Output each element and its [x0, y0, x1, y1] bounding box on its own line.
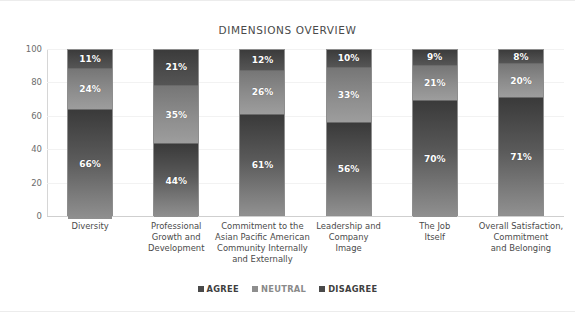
legend-swatch-disagree — [319, 286, 325, 292]
stacked-bar[interactable]: 11%24%66% — [67, 49, 113, 216]
y-axis-tick-label: 20 — [8, 178, 42, 188]
legend-swatch-agree — [198, 286, 204, 292]
chart-title: DIMENSIONS OVERVIEW — [0, 24, 575, 36]
stacked-bar[interactable]: 9%21%70% — [412, 49, 458, 216]
bar-segment-label: 8% — [513, 52, 528, 62]
stacked-bar[interactable]: 21%35%44% — [153, 49, 199, 216]
gridline — [47, 82, 564, 83]
x-axis-category-line: Asian Pacific American — [213, 232, 311, 243]
bar-segment-label: 24% — [79, 84, 101, 94]
bar-segment-disagree[interactable]: 11% — [68, 50, 112, 68]
bar-segment-label: 11% — [79, 54, 101, 64]
bar-segment-neutral[interactable]: 24% — [68, 68, 112, 110]
bar-segment-label: 12% — [252, 55, 274, 65]
bar-segment-disagree[interactable]: 8% — [499, 50, 543, 63]
legend-swatch-neutral — [252, 286, 258, 292]
bar-segment-neutral[interactable]: 26% — [240, 70, 284, 115]
bar-group: 10%33%56% — [326, 49, 372, 216]
x-axis-category-label: The JobItself — [386, 221, 484, 243]
bar-group: 12%26%61% — [239, 49, 285, 216]
gridline — [47, 149, 564, 150]
bar-segment-disagree[interactable]: 21% — [154, 50, 198, 85]
x-axis-category-line: Community Internally — [213, 243, 311, 254]
bar-segment-label: 26% — [252, 87, 274, 97]
y-axis-tick-label: 40 — [8, 144, 42, 154]
bar-segment-label: 71% — [510, 152, 532, 162]
bar-segment-agree[interactable]: 66% — [68, 110, 112, 219]
x-axis-labels: DiversityProfessionalGrowth andDevelopme… — [47, 221, 564, 277]
x-axis-category-line: Image — [300, 243, 398, 254]
bar-segment-disagree[interactable]: 9% — [413, 50, 457, 65]
chart-card: DIMENSIONS OVERVIEW 100806040200 11%24%6… — [0, 0, 575, 312]
x-axis-category-line: Company — [300, 232, 398, 243]
x-axis-category-label: Diversity — [41, 221, 139, 232]
x-axis-category-line: Professional — [127, 221, 225, 232]
bar-group: 8%20%71% — [498, 49, 544, 216]
gridline — [47, 49, 564, 50]
x-axis-category-line: Development — [127, 243, 225, 254]
x-axis-category-label: Commitment to theAsian Pacific AmericanC… — [213, 221, 311, 265]
x-axis-category-line: and Externally — [213, 254, 311, 265]
x-axis-category-line: Commitment to the — [213, 221, 311, 232]
legend-item-neutral[interactable]: NEUTRAL — [252, 284, 306, 294]
bar-segment-label: 66% — [79, 159, 101, 169]
bar-segment-neutral[interactable]: 20% — [499, 63, 543, 98]
plot-area: 11%24%66%21%35%44%12%26%61%10%33%56%9%21… — [47, 49, 564, 216]
x-axis-category-line: Commitment — [472, 232, 570, 243]
y-axis-tick-label: 0 — [8, 211, 42, 221]
bar-segment-label: 21% — [165, 62, 187, 72]
x-axis-line — [47, 216, 564, 217]
x-axis-category-label: Leadership andCompanyImage — [300, 221, 398, 254]
legend-item-disagree[interactable]: DISAGREE — [319, 284, 377, 294]
x-axis-category-line: Growth and — [127, 232, 225, 243]
x-axis-category-line: Diversity — [41, 221, 139, 232]
bar-segment-neutral[interactable]: 21% — [413, 65, 457, 102]
bar-segment-disagree[interactable]: 12% — [240, 50, 284, 70]
bar-group: 11%24%66% — [67, 49, 113, 216]
bar-segment-agree[interactable]: 70% — [413, 101, 457, 217]
bar-segment-label: 21% — [424, 78, 446, 88]
bar-segment-agree[interactable]: 44% — [154, 144, 198, 217]
y-axis-tick-label: 80 — [8, 77, 42, 87]
bar-segment-agree[interactable]: 61% — [240, 115, 284, 216]
bar-segment-label: 70% — [424, 154, 446, 164]
bar-segment-label: 33% — [338, 90, 360, 100]
legend-item-agree[interactable]: AGREE — [198, 284, 239, 294]
legend-label: NEUTRAL — [261, 284, 306, 294]
bar-segment-label: 56% — [338, 164, 360, 174]
bar-segment-label: 10% — [338, 53, 360, 63]
x-axis-category-line: Leadership and — [300, 221, 398, 232]
bar-segment-label: 61% — [252, 160, 274, 170]
gridline — [47, 183, 564, 184]
y-axis-tick-label: 60 — [8, 111, 42, 121]
bar-group: 9%21%70% — [412, 49, 458, 216]
bar-segment-neutral[interactable]: 35% — [154, 85, 198, 145]
y-axis: 100806040200 — [0, 49, 42, 216]
gridline — [47, 116, 564, 117]
bar-segment-label: 44% — [165, 176, 187, 186]
stacked-bar[interactable]: 12%26%61% — [239, 49, 285, 216]
stacked-bar[interactable]: 8%20%71% — [498, 49, 544, 216]
bar-segment-agree[interactable]: 56% — [327, 123, 371, 215]
legend-label: AGREE — [207, 284, 239, 294]
x-axis-category-line: Itself — [386, 232, 484, 243]
x-axis-category-label: Overall Satisfaction,Commitmentand Belon… — [472, 221, 570, 254]
legend-label: DISAGREE — [328, 284, 377, 294]
bar-segment-agree[interactable]: 71% — [499, 98, 543, 215]
bar-segment-label: 35% — [165, 110, 187, 120]
bar-segment-label: 20% — [510, 76, 532, 86]
x-axis-category-line: and Belonging — [472, 243, 570, 254]
y-axis-tick-label: 100 — [8, 44, 42, 54]
chart-legend: AGREENEUTRALDISAGREE — [0, 284, 575, 294]
x-axis-category-line: Overall Satisfaction, — [472, 221, 570, 232]
x-axis-category-line: The Job — [386, 221, 484, 232]
bar-group: 21%35%44% — [153, 49, 199, 216]
bar-segment-label: 9% — [427, 52, 442, 62]
x-axis-category-label: ProfessionalGrowth andDevelopment — [127, 221, 225, 254]
bar-segment-disagree[interactable]: 10% — [327, 50, 371, 67]
bar-segment-neutral[interactable]: 33% — [327, 67, 371, 123]
stacked-bar[interactable]: 10%33%56% — [326, 49, 372, 216]
